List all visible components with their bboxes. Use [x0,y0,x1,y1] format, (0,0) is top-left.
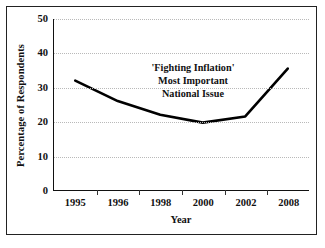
series-line [75,69,288,123]
y-tick-label: 10 [38,151,49,162]
chart-figure: Percentage of Respondents 01020304050199… [0,0,325,248]
x-tick-label: 2000 [193,198,214,209]
gridline [54,122,309,123]
x-tick-label: 2008 [278,198,299,209]
x-tick-label: 1996 [108,198,129,209]
gridline [54,19,309,20]
x-axis-tick [97,190,98,195]
x-tick-label: 1998 [150,198,171,209]
y-tick-label: 20 [38,117,49,128]
gridline [54,157,309,158]
x-axis-tick [139,190,140,195]
x-tick-label: 1995 [65,198,86,209]
y-tick-label: 40 [38,48,49,59]
data-line-svg [54,19,309,190]
x-axis-title: Year [53,215,309,226]
x-axis-tick [182,190,183,195]
y-axis-title: Percentage of Respondents [14,19,28,191]
y-axis-title-text: Percentage of Respondents [16,43,27,166]
plot-area: 01020304050199519961998200020022008 [53,19,309,191]
gridline [54,53,309,54]
y-tick-label: 50 [38,14,49,25]
gridline [54,88,309,89]
y-tick-label: 0 [43,186,48,197]
x-axis-tick [225,190,226,195]
x-tick-label: 2002 [236,198,257,209]
y-tick-label: 30 [38,83,49,94]
x-axis-tick [267,190,268,195]
